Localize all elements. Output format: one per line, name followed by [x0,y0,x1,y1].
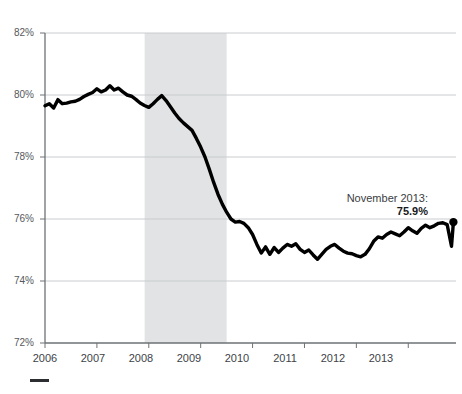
source-rule [30,379,49,382]
end-point-marker [449,218,457,226]
end-point-annotation: November 2013: 75.9% [347,192,428,218]
chart-container: 82% 80% 78% 76% 74% 72% 2006 2007 2008 2… [0,0,462,394]
annotation-date: November 2013: [347,192,428,205]
annotation-value: 75.9% [347,205,428,218]
data-series-line [45,86,453,260]
